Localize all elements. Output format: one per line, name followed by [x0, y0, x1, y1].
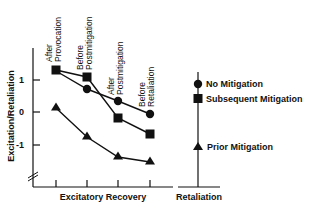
y-tick-label: 0: [19, 107, 24, 117]
triangle-marker: [145, 157, 155, 165]
square-marker: [194, 94, 203, 103]
phase-label: Postmitigation: [115, 41, 125, 95]
y-tick-label: 1: [19, 75, 24, 85]
y-axis-label: Excitation/Retaliation: [6, 70, 16, 162]
circle-marker: [114, 97, 122, 105]
square-marker: [114, 114, 123, 123]
y-ticks: 1 0 -1: [16, 75, 40, 150]
circle-marker: [194, 80, 202, 88]
y-tick-label: -1: [16, 140, 24, 150]
circle-marker: [146, 110, 154, 118]
triangle-marker: [82, 132, 92, 140]
line-chart: Excitation/Retaliation 1 0 -1 Excitatory…: [0, 0, 314, 210]
circle-marker: [83, 85, 91, 93]
series-prior-mitigation: [51, 103, 155, 165]
triangle-marker: [51, 103, 61, 111]
legend-label-no-mitigation: No Mitigation: [206, 79, 263, 89]
square-marker: [146, 130, 155, 139]
legend: No Mitigation Subsequent Mitigation Prio…: [193, 79, 303, 152]
legend-label-prior-mitigation: Prior Mitigation: [207, 142, 273, 152]
x-ticks: [56, 180, 150, 187]
square-marker: [83, 73, 92, 82]
triangle-marker: [193, 142, 203, 150]
phase-label: Provocation: [53, 17, 63, 62]
legend-label-subsequent-mitigation: Subsequent Mitigation: [206, 94, 303, 104]
x-axis-label: Excitatory Recovery: [60, 192, 147, 202]
retaliation-axis-label: Retaliation: [176, 192, 222, 202]
phase-label: Postmitigation: [84, 16, 94, 70]
phase-label: Retaliation: [146, 67, 156, 107]
